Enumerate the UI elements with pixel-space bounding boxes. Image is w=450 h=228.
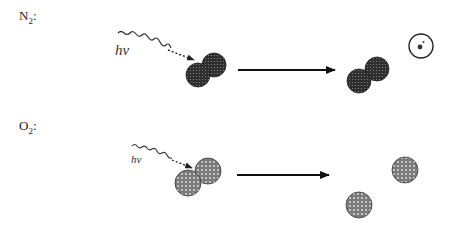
n2-colon: :: [33, 8, 37, 23]
n2-label: N2:: [19, 8, 37, 26]
photo-process-diagram: [0, 0, 450, 228]
o2-colon: :: [33, 118, 37, 133]
photon-arrow-o2: [172, 160, 192, 168]
o2-symbol: O: [19, 118, 28, 133]
electron-icon: [409, 34, 433, 58]
n2-molecule-reactant: [186, 53, 226, 87]
o2-label: O2:: [19, 118, 37, 136]
photon-label-o2: hν: [131, 153, 141, 165]
o-atom-product-1: [392, 157, 418, 183]
n2-ion-product: [347, 57, 389, 93]
photon-label-n2: hν: [115, 42, 129, 59]
o2-molecule-reactant: [175, 158, 221, 196]
photon-arrow-n2: [168, 50, 194, 60]
n2-symbol: N: [19, 8, 28, 23]
o-atom-product-2: [346, 192, 372, 218]
